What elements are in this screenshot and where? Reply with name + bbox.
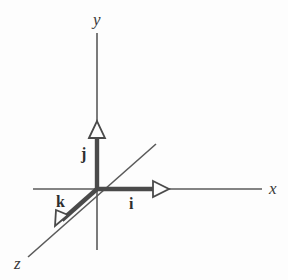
vector-shafts <box>62 130 160 220</box>
axis-label-z: z <box>14 255 21 272</box>
vector-label-j: j <box>81 146 86 162</box>
axis-label-y: y <box>93 11 101 28</box>
vector-label-k: k <box>56 194 65 210</box>
axis-lines <box>28 33 262 257</box>
axes-and-vectors-svg <box>0 0 288 280</box>
axis-label-x: x <box>269 180 277 197</box>
z-axis-line <box>28 144 156 257</box>
i-vector-arrowhead <box>153 181 169 197</box>
vector-label-i: i <box>129 196 133 212</box>
j-vector-arrowhead <box>89 121 105 138</box>
coordinate-axes-diagram: y x z j i k <box>0 0 288 280</box>
